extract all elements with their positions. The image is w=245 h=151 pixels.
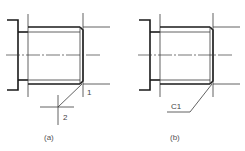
leader-line bbox=[58, 84, 82, 107]
callout-2: 2 bbox=[63, 113, 68, 122]
panel-a-drawing: 1 2 (a) bbox=[6, 13, 110, 142]
caption-b: (b) bbox=[170, 133, 180, 142]
callout-c1: C1 bbox=[171, 102, 182, 111]
drawing-canvas: 1 2 (a) C1 (b) bbox=[0, 0, 245, 151]
caption-a: (a) bbox=[44, 133, 54, 142]
chamfer-end bbox=[210, 27, 213, 84]
chamfer-end bbox=[80, 27, 83, 84]
callout-1: 1 bbox=[87, 88, 92, 97]
panel-b-drawing: C1 (b) bbox=[138, 13, 240, 142]
